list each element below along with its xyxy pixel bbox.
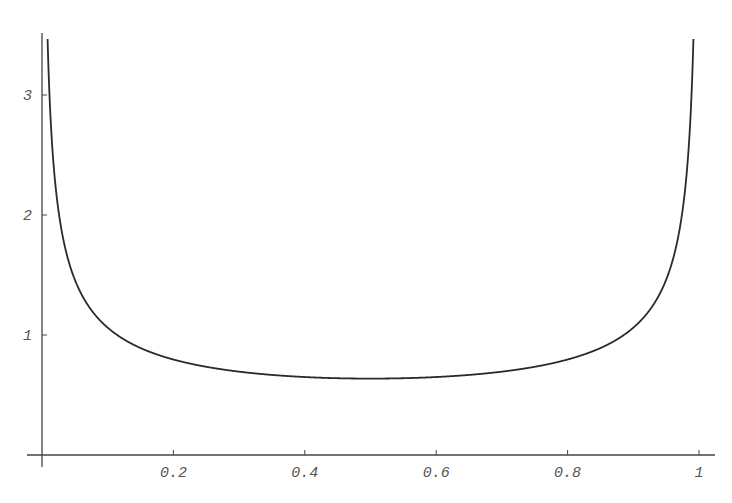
- y-tick-label: 2: [23, 208, 32, 225]
- y-tick-label: 3: [23, 88, 32, 105]
- x-tick-label: 0.6: [423, 465, 450, 482]
- data-curve: [48, 39, 694, 379]
- x-tick-label: 0.2: [160, 465, 187, 482]
- y-tick-label: 1: [23, 328, 32, 345]
- x-tick-label: 1: [694, 465, 703, 482]
- y-ticks: 123: [23, 88, 47, 345]
- x-tick-label: 0.8: [554, 465, 581, 482]
- chart: 0.20.40.60.81 123: [0, 0, 732, 503]
- x-tick-label: 0.4: [291, 465, 318, 482]
